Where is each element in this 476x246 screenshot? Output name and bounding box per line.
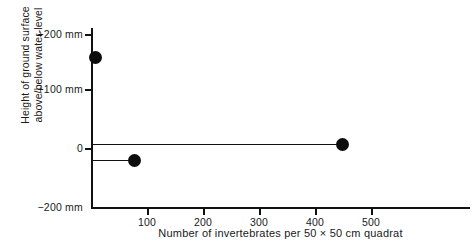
x-tick-200 — [203, 209, 205, 215]
scatter-plot: +200 mm +100 mm 0 −200 mm 100 200 300 40… — [0, 0, 476, 246]
y-tick-label-neg200-wrap: −200 mm — [0, 201, 83, 213]
data-point — [336, 138, 349, 151]
y-tick-100 — [85, 89, 92, 91]
x-tick-400 — [315, 209, 317, 215]
y-tick-0 — [85, 148, 92, 150]
leader-line — [92, 144, 342, 146]
x-tick-500 — [371, 209, 373, 215]
y-tick-label-neg200: −200 mm — [38, 201, 83, 213]
x-tick-300 — [259, 209, 261, 215]
chart-page: +200 mm +100 mm 0 −200 mm 100 200 300 40… — [0, 0, 476, 246]
data-point — [128, 154, 141, 167]
y-tick-label-0: 0 — [77, 142, 83, 154]
x-axis-title: Number of invertebrates per 50 × 50 cm q… — [91, 227, 470, 239]
data-point — [89, 51, 102, 64]
y-axis-title: Height of ground surface above/below wat… — [19, 0, 45, 155]
y-tick-200 — [85, 34, 92, 36]
x-tick-100 — [147, 209, 149, 215]
